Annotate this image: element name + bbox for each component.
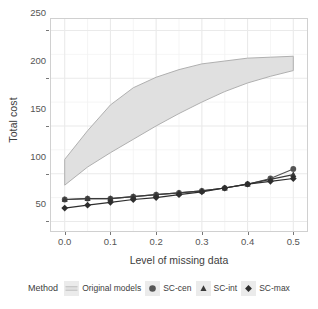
- line-swatch: [64, 281, 79, 296]
- x-tick-label: 0.1: [104, 236, 117, 247]
- chart-container: Total cost 50100150200250 0.00.10.20.30.…: [0, 0, 318, 309]
- x-tick-mark: [202, 232, 203, 235]
- x-tick-label: 0.5: [287, 236, 300, 247]
- x-tick-label: 0.0: [58, 236, 71, 247]
- y-tick-label: 250: [30, 7, 46, 18]
- legend-item-sc-max[interactable]: SC-max: [241, 281, 290, 296]
- circle-icon: [145, 281, 160, 296]
- plot-svg: [51, 19, 307, 231]
- x-tick-label: 0.4: [241, 236, 254, 247]
- y-tick-mark: [46, 30, 49, 31]
- legend-item-sc-int[interactable]: SC-int: [196, 281, 238, 296]
- legend-label: SC-max: [259, 283, 290, 293]
- x-tick-mark: [156, 232, 157, 235]
- legend-item-original-models[interactable]: Original models: [64, 281, 141, 296]
- y-tick-label: 200: [30, 55, 46, 66]
- y-axis-tick-labels: 50100150200250: [20, 0, 46, 240]
- legend-title: Method: [28, 283, 58, 293]
- legend-label: SC-int: [214, 283, 238, 293]
- legend: Method Original modelsSC-cenSC-intSC-max: [0, 278, 318, 298]
- y-tick-mark: [46, 221, 49, 222]
- legend-item-sc-cen[interactable]: SC-cen: [145, 281, 191, 296]
- x-tick-mark: [248, 232, 249, 235]
- y-tick-mark: [46, 174, 49, 175]
- y-tick-label: 150: [30, 102, 46, 113]
- x-axis-title: Level of missing data: [50, 254, 308, 266]
- y-tick-mark: [46, 126, 49, 127]
- x-tick-mark: [110, 232, 111, 235]
- y-axis-title-text: Total cost: [7, 97, 19, 142]
- triangle-icon: [196, 281, 211, 296]
- y-tick-label: 50: [35, 198, 46, 209]
- legend-label: SC-cen: [163, 283, 191, 293]
- x-tick-label: 0.2: [150, 236, 163, 247]
- plot-panel: [50, 18, 308, 232]
- x-axis-tick-labels: 0.00.10.20.30.40.5: [50, 236, 308, 250]
- legend-label: Original models: [82, 283, 141, 293]
- y-tick-mark: [46, 78, 49, 79]
- y-tick-label: 100: [30, 150, 46, 161]
- diamond-icon: [241, 281, 256, 296]
- x-tick-mark: [293, 232, 294, 235]
- x-tick-label: 0.3: [195, 236, 208, 247]
- x-tick-mark: [65, 232, 66, 235]
